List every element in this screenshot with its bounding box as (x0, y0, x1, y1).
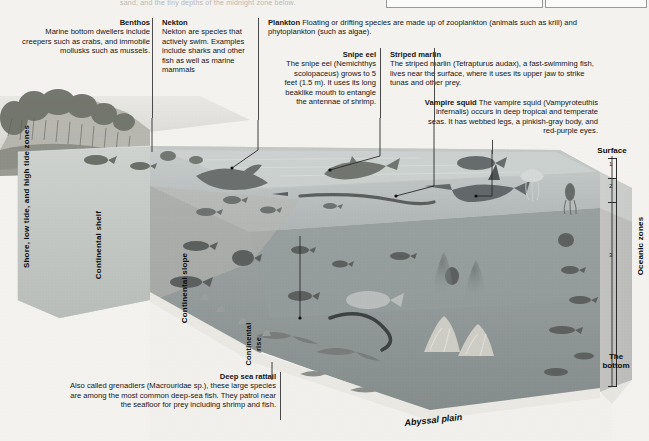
zone-tick-bottom (608, 386, 617, 387)
callout-plankton-title: Plankton (268, 18, 300, 27)
top-callout-box-left (386, 0, 543, 8)
callout-benthos-body: Marine bottom dwellers include creepers … (20, 27, 150, 55)
top-cut-text: sand, and the tiny depths of the midnigh… (120, 0, 370, 8)
label-shore-zones: Shore, low tide, and high tide zones (22, 148, 32, 268)
divider-nekton (258, 18, 259, 120)
callout-nekton-body: Nekton are species that actively swim. E… (162, 27, 248, 74)
top-callout-box-right (545, 0, 647, 8)
divider-deep-sea-rattail (280, 372, 281, 420)
divider-benthos (152, 18, 153, 118)
label-continental-slope: Continental slope (180, 228, 190, 348)
zone-tick-1 (608, 178, 617, 179)
label-continental-shelf: Continental shelf (94, 190, 104, 300)
callout-benthos: Benthos Marine bottom dwellers include c… (20, 18, 150, 56)
label-oceanic-zones: Oceanic zones (636, 186, 646, 306)
ocean-zones-diagram: sand, and the tiny depths of the midnigh… (0, 0, 649, 441)
zone-number-2: 2 (609, 183, 612, 189)
callout-plankton-body: Floating or drifting species are made up… (268, 18, 577, 36)
callout-vampire-squid-title: Vampire squid (425, 98, 477, 107)
callout-vampire-squid: Vampire squid The vampire squid (Vampyro… (420, 98, 598, 136)
label-continental-rise: Continental rise (244, 304, 263, 384)
callout-striped-marlin: Striped marlin The striped marlin (Tetra… (390, 50, 598, 88)
divider-vampire-squid (492, 140, 493, 154)
callout-striped-marlin-body: The striped marlin (Tetrapturus audax), … (390, 59, 598, 87)
callout-striped-marlin-title: Striped marlin (390, 50, 598, 59)
callout-plankton: Plankton Floating or drifting species ar… (268, 18, 586, 37)
callout-nekton-title: Nekton (162, 18, 248, 27)
callout-snipe-eel-title: Snipe eel (280, 50, 376, 59)
callout-deep-sea-rattail-body: Also called grenadiers (Macrouridae sp.)… (62, 381, 276, 409)
divider-snipe-eel (380, 48, 381, 118)
callout-benthos-title: Benthos (20, 18, 150, 27)
zone-surface-label: Surface (586, 146, 638, 155)
zone-bottom-label: The bottom (592, 352, 640, 370)
callout-snipe-eel: Snipe eel The snipe eel (Nemichthys scol… (280, 50, 376, 106)
zone-tick-2 (608, 202, 617, 203)
callout-nekton: Nekton Nekton are species that actively … (162, 18, 248, 74)
zone-tick-top (608, 158, 617, 159)
zone-number-1: 1 (609, 161, 612, 167)
callout-snipe-eel-body: The snipe eel (Nemichthys scolopaceus) g… (280, 59, 376, 106)
zone-number-3: 3 (609, 252, 612, 258)
